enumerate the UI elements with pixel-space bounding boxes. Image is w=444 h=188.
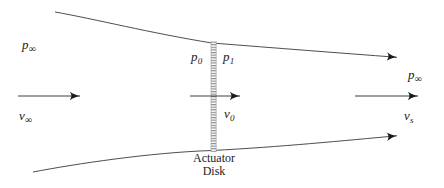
actuator-disk-caption: Actuator Disk bbox=[178, 152, 250, 178]
caption-line-1: Actuator bbox=[178, 152, 250, 165]
label-p-infinity-left: p∞ bbox=[22, 36, 36, 54]
figure-canvas: p∞ p0 p1 p∞ v∞ v0 vs Actuator Disk bbox=[0, 0, 444, 188]
actuator-disk bbox=[211, 41, 216, 152]
label-v-zero: v0 bbox=[224, 105, 235, 123]
label-p-one: p1 bbox=[223, 48, 234, 66]
caption-line-2: Disk bbox=[178, 165, 250, 178]
label-v-infinity: v∞ bbox=[19, 107, 32, 125]
label-p-zero: p0 bbox=[191, 48, 202, 66]
label-v-s: vs bbox=[404, 107, 414, 125]
label-p-infinity-right: p∞ bbox=[408, 66, 422, 84]
